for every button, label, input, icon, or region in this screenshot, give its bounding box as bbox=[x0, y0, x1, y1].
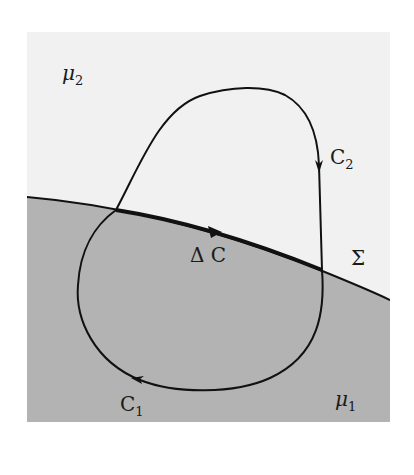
delta-c-label: Δ C bbox=[190, 243, 226, 267]
contour-diagram: μ2 C2 Δ C Σ C1 μ1 bbox=[0, 0, 414, 475]
sigma-label: Σ bbox=[351, 246, 365, 270]
